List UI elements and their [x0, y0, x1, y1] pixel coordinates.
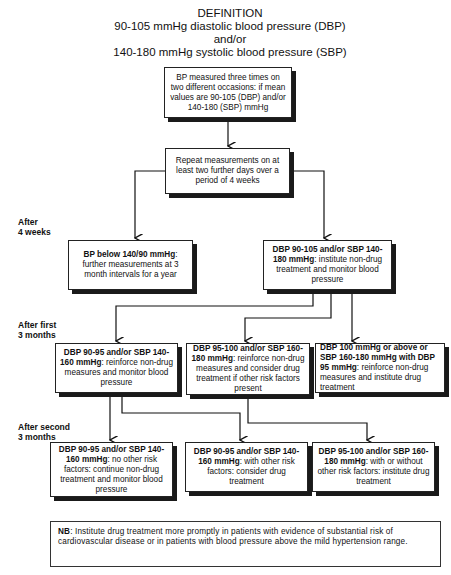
box-first-3mo-dbp-90-95: DBP 90-95 and/or SBP 140-160 mmHg: reinf… [55, 343, 178, 393]
note-box: NB: Institute drug treatment more prompt… [50, 521, 441, 567]
box-repeat-measurements: Repeat measurements on at least two furt… [165, 148, 290, 194]
label-line: After second [18, 422, 70, 432]
label-line: 3 months [18, 330, 56, 340]
box-second-3mo-no-risk: DBP 90-95 and/or SBP 140-160 mmHg: no ot… [50, 442, 173, 497]
box-heading: BP below 140/90 mmHg [83, 250, 175, 259]
label-after-4-weeks: After 4 weeks [18, 217, 51, 237]
note-text: : Institute drug treatment more promptly… [58, 527, 408, 546]
label-line: After first [18, 320, 56, 330]
box-second-3mo-with-risk: DBP 90-95 and/or SBP 140-160 mmHg: with … [185, 442, 308, 492]
box-text: BP measured three times on two different… [169, 73, 287, 113]
box-first-3mo-dbp-95-100: DBP 95-100 and/or SBP 160-180 mmHg: rein… [186, 343, 310, 395]
box-mild-hypertension: DBP 90-105 and/or SBP 140-180 mmHg: inst… [263, 240, 392, 290]
box-bp-below-threshold: BP below 140/90 mmHg: further measuremen… [68, 240, 193, 290]
box-first-3mo-dbp-100-above: DBP 100 mmHg or above or SBP 160-180 mmH… [315, 343, 445, 393]
box-second-3mo-drug-treatment: DBP 95-100 and/or SBP 160-180 mmHg: with… [312, 442, 435, 492]
box-initial-measurement: BP measured three times on two different… [164, 67, 292, 118]
label-line: After [18, 217, 51, 227]
label-after-second-3-months: After second 3 months [18, 422, 70, 442]
label-after-first-3-months: After first 3 months [18, 320, 56, 340]
note-heading: NB [58, 527, 70, 536]
box-text: Repeat measurements on at least two furt… [170, 156, 285, 186]
label-line: 3 months [18, 432, 70, 442]
label-line: 4 weeks [18, 227, 51, 237]
